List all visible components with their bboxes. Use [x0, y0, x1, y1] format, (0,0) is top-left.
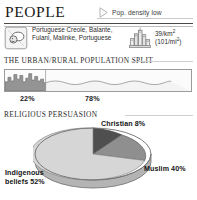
density-metric-value: 39/km	[155, 30, 173, 37]
pie-label-indigenous: Indigenous beliefs 52%	[5, 169, 65, 187]
urban-rural-section-heading: THE URBAN/RURAL POPULATION SPLIT	[4, 56, 193, 67]
triangle-right-icon	[99, 7, 108, 18]
density-imperial: (101/mi2)	[155, 38, 181, 46]
density-imperial-value: (101/mi	[155, 38, 177, 45]
urban-percent-label: 22%	[20, 94, 35, 103]
density-metric-exponent: 2	[173, 29, 176, 34]
rural-percent-label: 78%	[85, 94, 100, 103]
pie-label-muslim: Muslim 40%	[144, 165, 186, 174]
languages-line-1: Portuguese Creole, Balante,	[32, 26, 112, 34]
urban-rural-percent-labels: 22% 78%	[4, 94, 192, 104]
urban-rural-heading-rule	[131, 61, 193, 62]
density-tag: Pop. density low	[99, 7, 162, 18]
languages-fact: Portuguese Creole, Balante, Fulani, Mali…	[4, 26, 112, 50]
languages-text: Portuguese Creole, Balante, Fulani, Mali…	[32, 26, 112, 42]
density-tag-label: Pop. density low	[112, 9, 162, 16]
facts-row: Portuguese Creole, Balante, Fulani, Mali…	[0, 26, 197, 54]
people-infographic-panel: PEOPLE Pop. density low Portuguese Creol…	[0, 0, 197, 200]
header-tag-rule	[97, 18, 193, 19]
page-title: PEOPLE	[5, 3, 65, 20]
religion-pie-chart: Christian 8% Muslim 40% Indigenous belie…	[0, 120, 197, 200]
religion-heading-rule	[125, 115, 193, 116]
speech-head-icon	[4, 26, 28, 50]
panel-header: PEOPLE Pop. density low	[0, 2, 197, 24]
pie-label-christian: Christian 8%	[101, 120, 145, 129]
languages-line-2: Fulani, Malinke, Portuguese	[32, 34, 112, 42]
urban-rural-split-graphic	[5, 70, 191, 91]
buildings-icon	[128, 26, 152, 50]
religion-title: RELIGIOUS PERSUASION	[4, 110, 100, 119]
density-text: 39/km2 (101/mi2)	[155, 26, 181, 47]
density-imperial-tail: )	[179, 38, 181, 45]
urban-rural-split-chart	[4, 69, 192, 92]
population-density-fact: 39/km2 (101/mi2)	[128, 26, 181, 50]
header-divider	[4, 23, 193, 24]
